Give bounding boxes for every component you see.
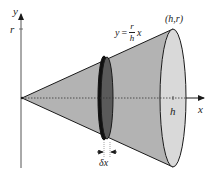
fraction-denominator: h <box>130 34 135 43</box>
cone-volume-diagram <box>0 0 214 177</box>
fraction-numerator: r <box>130 22 134 31</box>
equation-equals: = <box>121 27 127 38</box>
slice-thickness-label: δx <box>99 158 108 168</box>
r-tick-label: r <box>10 24 14 35</box>
equation-fraction: r h <box>129 22 135 43</box>
equation-variable: x <box>137 27 141 38</box>
x-axis-label: x <box>198 104 203 115</box>
equation-lhs: y <box>115 27 119 38</box>
cone-apex <box>21 97 23 99</box>
point-label: (h,r) <box>165 14 183 24</box>
h-tick-label: h <box>170 106 176 117</box>
curve-equation: y = r h x <box>115 22 142 43</box>
y-axis-label: y <box>13 6 18 17</box>
